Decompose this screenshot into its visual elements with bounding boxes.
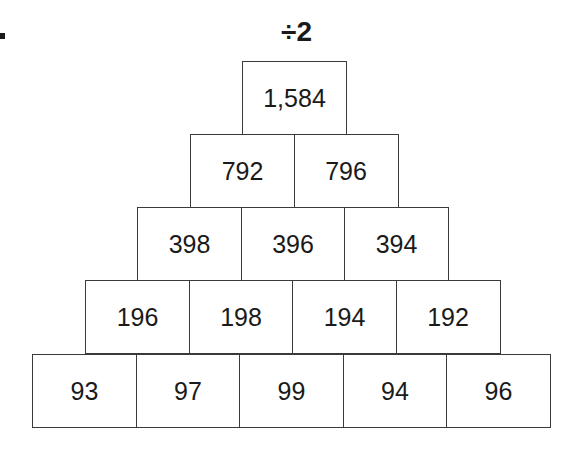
pyramid-row-5: 93 97 99 94 96 <box>32 354 551 428</box>
pyramid-cell: 196 <box>85 280 190 354</box>
pyramid-cell: 192 <box>396 280 501 354</box>
pyramid-cell: 99 <box>239 354 344 428</box>
pyramid-row-2: 792 796 <box>190 134 399 208</box>
pyramid-cell: 194 <box>292 280 397 354</box>
pyramid-cell: 1,584 <box>242 61 347 135</box>
pyramid-cell: 796 <box>294 134 399 208</box>
pyramid-cell: 94 <box>343 354 448 428</box>
pyramid-cell: 198 <box>189 280 294 354</box>
pyramid-row-3: 398 396 394 <box>137 207 449 281</box>
pyramid-cell: 96 <box>446 354 551 428</box>
pyramid-cell: 396 <box>241 207 346 281</box>
pyramid-cell: 398 <box>137 207 242 281</box>
pyramid-row-4: 196 198 194 192 <box>85 280 501 354</box>
pyramid-row-1: 1,584 <box>242 61 347 135</box>
number-pyramid: 1,584 792 796 398 396 394 196 198 194 19… <box>0 0 581 466</box>
pyramid-cell: 394 <box>344 207 449 281</box>
pyramid-cell: 792 <box>190 134 295 208</box>
pyramid-cell: 97 <box>136 354 241 428</box>
pyramid-cell: 93 <box>32 354 137 428</box>
